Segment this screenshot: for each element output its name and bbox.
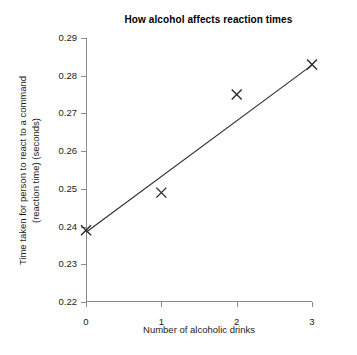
reaction-time-chart: How alcohol affects reaction times Time … [0, 0, 357, 355]
y-axis-title-line-2: (reaction time) (seconds) [30, 75, 43, 264]
line-of-best-fit [86, 65, 312, 232]
x-tick: 1 [161, 302, 162, 307]
chart-title: How alcohol affects reaction times [0, 14, 357, 25]
y-tick-label: 0.23 [59, 258, 78, 269]
x-tick: 0 [86, 302, 87, 307]
y-tick-label: 0.25 [59, 183, 78, 194]
data-point-marker [156, 188, 166, 198]
y-tick-label: 0.29 [59, 32, 78, 43]
x-tick: 2 [237, 302, 238, 307]
y-tick-label: 0.27 [59, 107, 78, 118]
data-point-marker [81, 225, 91, 235]
y-axis-title: Time taken for person to react to a comm… [10, 38, 50, 302]
y-tick-label: 0.24 [59, 221, 78, 232]
data-point-marker [232, 90, 242, 100]
data-layer [86, 38, 312, 302]
x-axis-title: Number of alcoholic drinks [86, 324, 312, 335]
data-point-marker [307, 59, 317, 69]
plot-area: 0.220.230.240.250.260.270.280.29 0123 [86, 38, 312, 302]
x-tick: 3 [312, 302, 313, 307]
y-axis-title-line-1: Time taken for person to react to a comm… [18, 75, 31, 264]
y-tick-label: 0.26 [59, 145, 78, 156]
y-tick-label: 0.28 [59, 70, 78, 81]
y-tick-label: 0.22 [59, 296, 78, 307]
